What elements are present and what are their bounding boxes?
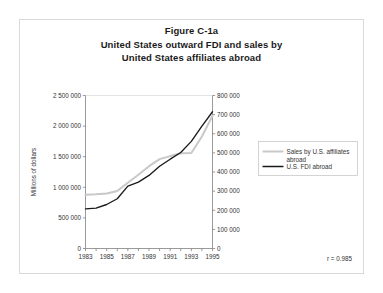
y-axis-right-tick-label: 200 000	[217, 207, 240, 214]
y-axis-right-tick-label: 300 000	[217, 187, 240, 194]
y-axis-left-tick-label: 2 000 000	[53, 122, 82, 129]
x-axis-tick-label: 1983	[78, 253, 93, 260]
chart-plot-area: 0500 0001 000 0001 500 0002 000 0002 500…	[0, 0, 383, 293]
x-axis-tick-label: 1995	[205, 253, 220, 260]
data-line-series-0	[86, 116, 213, 195]
chart-annotations: r = 0.985	[327, 255, 353, 262]
x-axis-tick-label: 1987	[121, 253, 136, 260]
y-axis-left-tick-label: 2 500 000	[53, 92, 82, 99]
chart-series-group	[86, 112, 213, 209]
y-axis-right-tick-label: 500 000	[217, 149, 240, 156]
chart-legend: Sales by U.S. affiliatesabroadU.S. FDI a…	[259, 142, 358, 176]
correlation-annotation: r = 0.985	[327, 255, 353, 262]
x-axis-tick-label: 1991	[163, 253, 178, 260]
x-axis-tick-label: 1985	[100, 253, 115, 260]
y-axis-right-tick-label: 400 000	[217, 168, 240, 175]
legend-label-1: U.S. FDI abroad	[287, 163, 333, 170]
y-axis-right-tick-label: 700 000	[217, 111, 240, 118]
legend-label-0: Sales by U.S. affiliates	[287, 148, 350, 156]
y-axis-left-tick-label: 0	[77, 245, 81, 252]
figure-container: Figure C-1a United States outward FDI an…	[0, 0, 383, 293]
y-axis-right-tick-label: 800 000	[217, 92, 240, 99]
legend-box	[259, 142, 358, 176]
x-axis-tick-label: 1993	[184, 253, 199, 260]
y-axis-left-tick-label: 1 000 000	[53, 184, 82, 191]
y-axis-left-tick-label: 500 000	[58, 214, 81, 221]
y-axis-title: Millions of dollars	[30, 148, 37, 196]
y-axis-right-tick-label: 100 000	[217, 226, 240, 233]
y-axis-right-tick-label: 0	[217, 245, 221, 252]
legend-label-0-line2: abroad	[287, 156, 307, 163]
x-axis-tick-label: 1989	[142, 253, 157, 260]
y-axis-left-tick-label: 1 500 000	[53, 153, 82, 160]
y-axis-right-tick-label: 600 000	[217, 130, 240, 137]
